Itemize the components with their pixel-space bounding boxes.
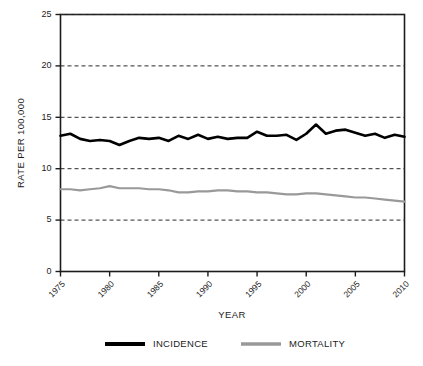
y-tick-label-10: 10 [41,163,51,173]
y-tick-label-0: 0 [46,266,51,276]
legend-label-incidence: INCIDENCE [153,338,208,349]
y-tick-label-25: 25 [41,9,51,19]
y-tick-label-20: 20 [41,60,51,70]
chart-background [0,0,423,366]
y-tick-label-5: 5 [46,214,51,224]
legend-label-mortality: MORTALITY [289,338,346,349]
line-chart: 0510152025 19751980198519901995200020052… [0,0,423,366]
y-axis-title: RATE PER 100,000 [15,98,26,188]
chart-container: 0510152025 19751980198519901995200020052… [0,0,423,366]
y-tick-label-15: 15 [41,112,51,122]
x-axis-title: YEAR [218,309,245,320]
